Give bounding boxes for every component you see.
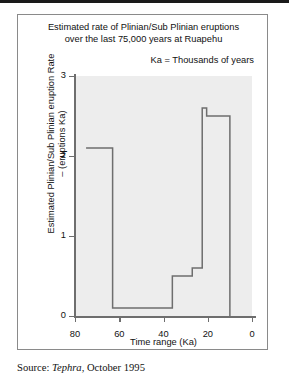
source-prefix: Source: — [17, 362, 49, 373]
x-axis-tick-40 — [164, 317, 165, 322]
eruption-rate-step-line — [86, 108, 230, 316]
source-caption: Source: Tephra, October 1995 — [17, 362, 145, 373]
x-axis-tick-80 — [75, 317, 76, 322]
top-divider-rule — [0, 0, 289, 3]
y-axis-tick-3 — [69, 76, 74, 77]
y-axis-tick-2 — [69, 156, 74, 157]
source-date: , October 1995 — [82, 362, 145, 373]
step-series-plot — [75, 76, 252, 317]
units-note: Ka = Thousands of years — [151, 55, 254, 65]
figure-container: Estimated rate of Plinian/Sub Plinian er… — [17, 14, 268, 350]
y-axis-title-line-2: – (eruptions Ka) — [57, 39, 68, 249]
x-axis-tick-0 — [252, 317, 253, 322]
x-axis-tick-20 — [208, 317, 209, 322]
x-axis-tick-60 — [119, 317, 120, 322]
y-axis-label-0: 0 — [49, 310, 66, 320]
y-tick-label-0-wrap: 0 — [49, 316, 66, 317]
source-publication: Tephra — [52, 362, 82, 373]
y-axis-title-line-1: Estimated Plinian/Sub Plinian eruption R… — [46, 54, 56, 234]
x-axis-title: Time range (Ka) — [75, 337, 252, 347]
y-axis-tick-0 — [69, 316, 74, 317]
y-axis-title: Estimated Plinian/Sub Plinian eruption R… — [46, 39, 67, 249]
chart-title-line-1: Estimated rate of Plinian/Sub Plinian er… — [48, 22, 239, 32]
y-axis-tick-1 — [69, 236, 74, 237]
